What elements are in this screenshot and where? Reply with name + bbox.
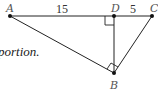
segment-bc — [114, 16, 152, 73]
label-a: A — [6, 3, 14, 14]
label-ad-length: 15 — [56, 3, 68, 15]
label-d: D — [111, 3, 120, 14]
geometry-diagram: A 15 D 5 C B portion. — [0, 0, 158, 98]
right-angle-mark-b — [107, 63, 118, 69]
label-c: C — [150, 3, 158, 14]
label-b: B — [110, 80, 118, 91]
label-dc-length: 5 — [130, 3, 136, 15]
point-b — [112, 71, 116, 75]
text-fragment: portion. — [0, 45, 40, 58]
